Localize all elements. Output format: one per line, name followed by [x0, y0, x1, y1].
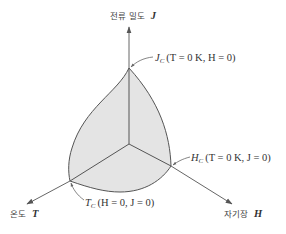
critical-surface-diagram: 전류 밀도 J 온도 T 자기장 H JC(T = 0 K, H = 0) HC…	[0, 0, 286, 234]
critical-surface	[69, 68, 171, 192]
jc-pointer	[131, 57, 153, 67]
hc-pointer	[173, 157, 190, 165]
hc-label: HC(T = 0 K, J = 0)	[190, 152, 271, 165]
t-axis	[27, 181, 70, 204]
tc-label: TC(H = 0, J = 0)	[85, 197, 155, 210]
j-axis-label: 전류 밀도 J	[110, 5, 157, 22]
tc-pointer	[71, 183, 84, 200]
h-axis	[171, 166, 232, 204]
jc-label: JC(T = 0 K, H = 0)	[155, 52, 236, 65]
t-axis-label: 온도 T	[10, 203, 39, 220]
h-axis-label: 자기장 H	[224, 203, 263, 220]
